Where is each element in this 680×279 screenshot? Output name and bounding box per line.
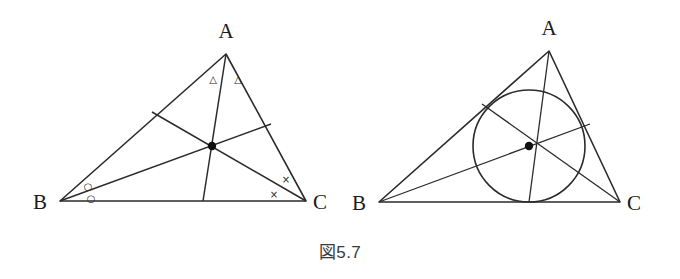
- left-incenter-dot: [208, 142, 216, 150]
- angle-mark-a1-icon: △: [209, 74, 217, 85]
- angle-mark-b2-icon: ○: [87, 193, 96, 204]
- left-cevian-from-c: [152, 112, 306, 201]
- right-vertex-label-b: B: [352, 191, 366, 215]
- left-panel-group: A B C △ △ ○ ○ × ×: [33, 19, 327, 214]
- right-incenter-dot: [525, 142, 533, 150]
- angle-mark-a2-icon: △: [234, 74, 242, 85]
- right-panel-group: A B C: [352, 16, 641, 215]
- caption-number: 5.7: [336, 243, 361, 262]
- left-vertex-label-b: B: [33, 190, 47, 214]
- left-vertex-label-c: C: [313, 190, 327, 214]
- angle-mark-c1-icon: ×: [282, 174, 290, 185]
- figure-container: A B C △ △ ○ ○ × ×: [0, 0, 680, 279]
- right-vertex-label-a: A: [541, 16, 557, 40]
- angle-mark-c2-icon: ×: [270, 189, 278, 200]
- angle-mark-b1-icon: ○: [84, 181, 93, 192]
- right-cevian-from-c: [482, 104, 620, 202]
- caption-symbol: 図: [319, 242, 337, 262]
- figure-caption: 図5.7: [0, 238, 680, 263]
- right-cevian-from-a: [529, 51, 549, 202]
- right-cevian-from-b: [379, 124, 590, 202]
- left-vertex-label-a: A: [218, 19, 234, 43]
- right-vertex-label-c: C: [627, 191, 641, 215]
